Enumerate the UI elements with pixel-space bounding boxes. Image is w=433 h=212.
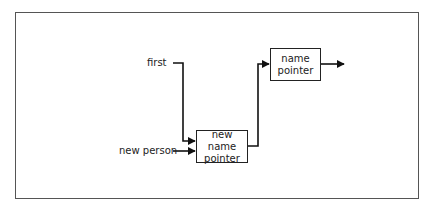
edge-first-to-new-name-pointer (173, 63, 195, 141)
node-new-name-pointer-line2: pointer (204, 153, 240, 165)
input-label-new-person: new person (119, 145, 177, 157)
edge-new-name-pointer-to-name-pointer (247, 64, 269, 146)
node-new-name-pointer-line1: new name (197, 129, 247, 153)
node-new-name-pointer: new name pointer (196, 130, 248, 163)
input-label-first: first (147, 57, 167, 69)
connector-lines (0, 0, 433, 212)
node-name-pointer: name pointer (270, 48, 321, 81)
node-name-pointer-line1: name (281, 53, 309, 65)
node-name-pointer-line2: pointer (278, 65, 314, 77)
